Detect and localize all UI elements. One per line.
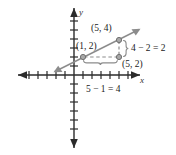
run-calculation-label: 5 − 1 = 4 [86,85,120,95]
y-axis-label: y [79,8,83,17]
point-label-1-2: (1, 2) [76,42,97,52]
x-axis-arrow-left [18,71,27,79]
point-5-4 [116,37,121,42]
x-axis-label: x [140,76,144,85]
y-axis-arrow-up [70,8,78,17]
rise-brace [124,41,129,57]
x-axis [18,71,140,79]
coordinate-plane-svg [0,0,176,155]
point-label-5-2: (5, 2) [122,60,143,70]
y-axis [70,8,78,148]
point-1-2 [80,54,85,59]
point-label-5-4: (5, 4) [91,24,112,34]
x-axis-arrow-right [131,71,140,79]
figure-container: (5, 4) (1, 2) (5, 2) 4 − 2 = 2 5 − 1 = 4… [0,0,176,155]
run-brace [84,61,118,65]
y-axis-arrow-down [70,139,78,148]
rise-calculation-label: 4 − 2 = 2 [131,44,165,54]
point-5-2 [116,54,121,59]
